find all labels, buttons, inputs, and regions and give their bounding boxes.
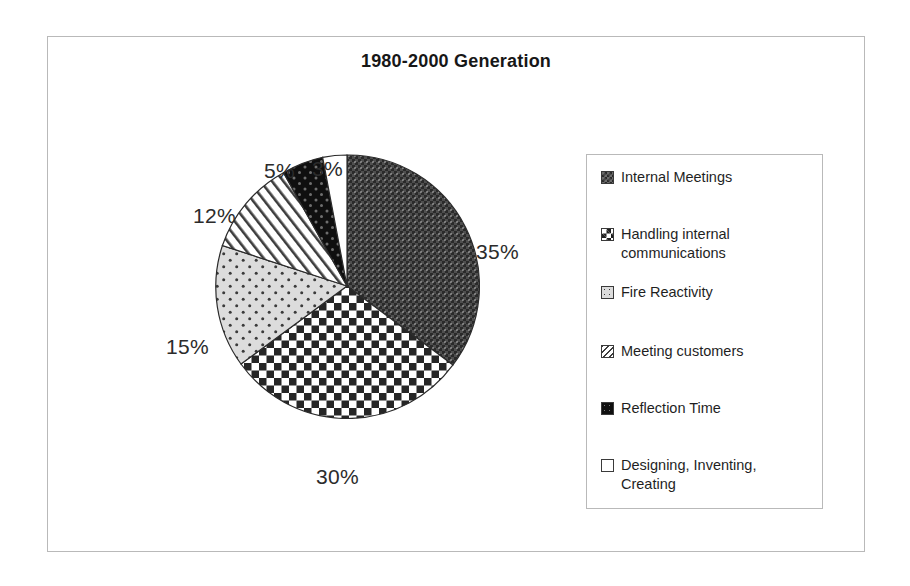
legend-item-handling-internal-communications[interactable]: Handling internal communications — [601, 225, 815, 263]
pie-chart-svg — [214, 153, 480, 419]
pie-label-12: 12% — [193, 204, 236, 228]
light-dots-swatch — [601, 286, 614, 299]
pie-chart — [214, 153, 480, 419]
legend-item-reflection-time[interactable]: Reflection Time — [601, 399, 815, 418]
legend-label: Reflection Time — [621, 399, 721, 418]
legend-item-internal-meetings[interactable]: Internal Meetings — [601, 168, 815, 187]
diagonal-hatch-swatch — [601, 345, 614, 358]
dark-crosshatch-swatch — [601, 171, 614, 184]
legend-item-meeting-customers[interactable]: Meeting customers — [601, 342, 815, 361]
pie-label-3: 3% — [312, 157, 343, 181]
pie-label-15: 15% — [166, 335, 209, 359]
legend-label: Fire Reactivity — [621, 283, 713, 302]
legend: Internal Meetings Handling internal comm… — [586, 154, 823, 509]
legend-item-designing-inventing-creating[interactable]: Designing, Inventing, Creating — [601, 456, 815, 494]
pie-label-30: 30% — [316, 465, 359, 489]
page-title: 1980-2000 Generation — [48, 51, 864, 72]
black-dots-swatch — [601, 402, 614, 415]
checkerboard-swatch — [601, 228, 614, 241]
legend-label: Internal Meetings — [621, 168, 732, 187]
chart-frame: 1980-2000 Generation — [47, 36, 865, 552]
legend-label: Handling internal communications — [621, 225, 815, 263]
solid-white-swatch — [601, 459, 614, 472]
legend-item-fire-reactivity[interactable]: Fire Reactivity — [601, 283, 815, 302]
pie-label-35: 35% — [476, 240, 519, 264]
legend-label: Meeting customers — [621, 342, 744, 361]
legend-label: Designing, Inventing, Creating — [621, 456, 815, 494]
pie-label-5: 5% — [264, 159, 295, 183]
